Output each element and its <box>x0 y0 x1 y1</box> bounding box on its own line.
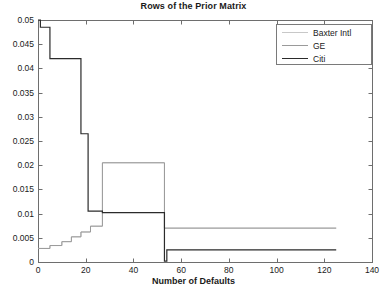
x-axis-title: Number of Defaults <box>0 276 387 286</box>
legend-label: Citi <box>313 54 325 64</box>
series-line <box>38 163 336 249</box>
legend-swatch <box>282 45 308 46</box>
legend-item[interactable]: Citi <box>277 52 373 65</box>
x-tick-label: 40 <box>129 265 138 275</box>
legend-item[interactable]: Baxter Intl <box>277 26 373 39</box>
x-tick-label: 100 <box>269 265 283 275</box>
x-tick-label: 0 <box>36 265 41 275</box>
x-tick-label: 140 <box>365 265 379 275</box>
legend-label: GE <box>313 41 325 51</box>
chart-figure: Rows of the Prior Matrix 00.0050.010.015… <box>0 0 387 291</box>
legend-label: Baxter Intl <box>313 28 351 38</box>
legend-swatch <box>282 32 308 33</box>
x-tick-label: 80 <box>224 265 233 275</box>
x-tick-label: 120 <box>317 265 331 275</box>
x-tick-label: 20 <box>81 265 90 275</box>
x-tick-label: 60 <box>176 265 185 275</box>
chart-legend: Baxter IntlGECiti <box>276 24 372 65</box>
legend-item[interactable]: GE <box>277 39 373 52</box>
series-line <box>38 163 336 249</box>
legend-swatch <box>282 58 308 59</box>
